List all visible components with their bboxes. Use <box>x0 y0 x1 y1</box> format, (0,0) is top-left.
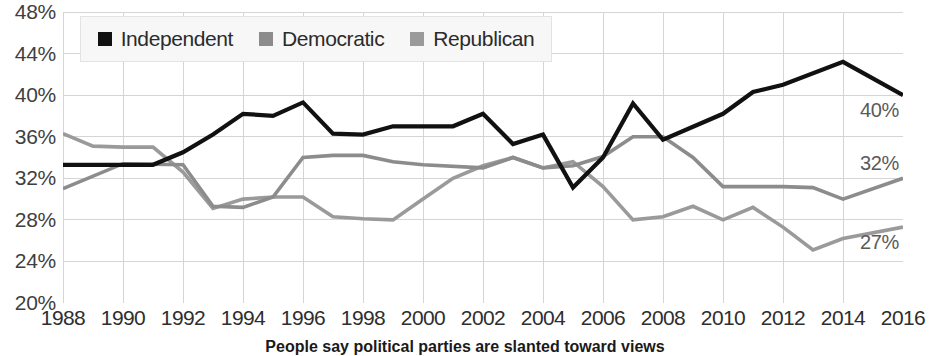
y-axis-labels: 20%24%28%32%36%40%44%48% <box>0 0 56 354</box>
y-axis-tick-label: 44% <box>15 42 56 66</box>
x-axis-tick-label: 1994 <box>221 306 265 330</box>
x-axis-tick-label: 2008 <box>641 306 685 330</box>
x-axis-tick-label: 1988 <box>41 306 85 330</box>
x-axis-tick-label: 2016 <box>881 306 925 330</box>
end-label-independent: 40% <box>860 99 899 122</box>
y-axis-tick-label: 24% <box>15 249 56 273</box>
legend-label: Republican <box>433 27 534 51</box>
legend-swatch-icon <box>410 32 424 46</box>
legend-item-independent[interactable]: Independent <box>98 27 233 51</box>
legend-label: Democratic <box>282 27 384 51</box>
y-axis-tick-label: 28% <box>15 208 56 232</box>
y-axis-tick-label: 32% <box>15 166 56 190</box>
x-axis-tick-label: 1990 <box>101 306 145 330</box>
x-axis-tick-label: 1992 <box>161 306 205 330</box>
legend-item-democratic[interactable]: Democratic <box>259 27 384 51</box>
x-axis-tick-label: 1996 <box>281 306 325 330</box>
legend-label: Independent <box>121 27 233 51</box>
chart-legend: IndependentDemocraticRepublican <box>80 16 552 62</box>
y-axis-tick-label: 40% <box>15 83 56 107</box>
end-label-democratic: 32% <box>860 152 899 175</box>
x-axis-tick-label: 1998 <box>341 306 385 330</box>
y-axis-tick-label: 36% <box>15 125 56 149</box>
x-axis-tick-label: 2010 <box>701 306 745 330</box>
legend-swatch-icon <box>259 32 273 46</box>
legend-swatch-icon <box>98 32 112 46</box>
x-axis-tick-label: 2000 <box>401 306 445 330</box>
legend-item-republican[interactable]: Republican <box>410 27 534 51</box>
x-axis-tick-label: 2002 <box>461 306 505 330</box>
chart-caption: People say political parties are slanted… <box>0 338 930 356</box>
x-axis-tick-label: 2006 <box>581 306 625 330</box>
x-axis-tick-label: 2004 <box>521 306 565 330</box>
x-axis-tick-label: 2012 <box>761 306 805 330</box>
end-label-republican: 27% <box>860 231 899 254</box>
x-axis-tick-label: 2014 <box>821 306 865 330</box>
y-axis-tick-label: 48% <box>15 0 56 24</box>
